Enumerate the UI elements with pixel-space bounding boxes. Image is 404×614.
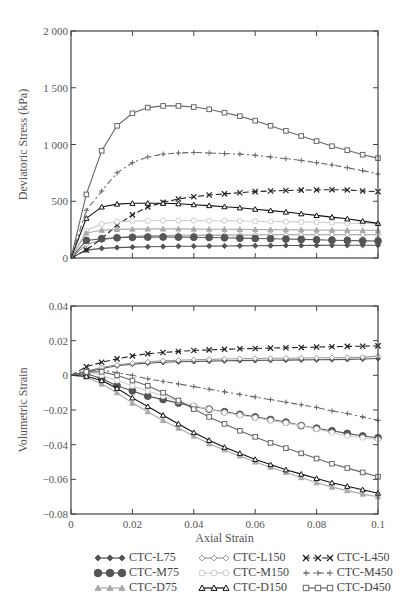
triangle-open-marker-icon [268, 208, 273, 213]
legend-label: CTC-D75 [129, 580, 177, 595]
circle-filled-marker-icon [313, 236, 320, 243]
series-ctc-l75 [71, 243, 381, 258]
plus-marker-icon [207, 387, 212, 392]
plus-marker-icon [314, 160, 319, 165]
legend-item-ctc-m75: CTC-M75 [94, 565, 198, 580]
circle-open-marker-icon [345, 433, 350, 438]
triangle-filled-marker-icon [329, 227, 334, 232]
diamond-open-marker-icon [360, 232, 365, 237]
square-open-marker-icon [207, 107, 212, 112]
triangle-filled-marker-icon [268, 227, 273, 232]
square-open-marker-icon [299, 451, 304, 456]
diamond-filled-marker-icon [222, 243, 227, 248]
diamond-open-marker-icon [199, 555, 205, 561]
diamond-open-marker-icon [345, 232, 350, 237]
square-open-marker-icon [315, 585, 320, 590]
figure: 05001 0001 5002 000Deviatoric Stress (kP… [0, 0, 404, 550]
circle-filled-marker-icon [190, 234, 197, 241]
y-tick-label: −0.02 [43, 404, 68, 416]
square-open-marker-icon [161, 390, 166, 395]
triangle-filled-marker-icon [222, 227, 227, 232]
circle-filled-marker-icon [252, 235, 259, 242]
plus-marker-icon [253, 394, 258, 399]
square-open-marker-icon [360, 152, 365, 157]
triangle-open-marker-icon [283, 467, 288, 472]
plus-marker-icon [161, 152, 166, 157]
plus-marker-icon [303, 570, 309, 576]
circle-filled-marker-icon [83, 237, 90, 244]
triangle-open-marker-icon [314, 476, 319, 481]
plus-marker-icon [191, 384, 196, 389]
circle-open-marker-icon [176, 218, 181, 223]
plus-legend-icon [302, 567, 334, 579]
square-open-marker-icon [345, 148, 350, 153]
legend-row: CTC-D75CTC-D150CTC-D450 [94, 580, 394, 595]
plus-marker-icon [191, 150, 196, 155]
y-tick-label: 0 [63, 252, 69, 264]
square-open-legend-icon [302, 582, 334, 594]
x-tick-label: 0.1 [371, 518, 385, 530]
plus-marker-icon [299, 158, 304, 163]
circle-open-marker-icon [130, 383, 135, 388]
circle-filled-marker-icon [298, 236, 305, 243]
square-open-marker-icon [130, 378, 135, 383]
triangle-open-marker-icon [253, 457, 258, 462]
legend-label: CTC-L75 [129, 550, 176, 565]
square-open-marker-icon [176, 104, 181, 109]
circle-open-marker-icon [207, 218, 212, 223]
y-tick-label: 0 [63, 369, 69, 381]
square-open-marker-icon [145, 105, 150, 110]
circle-open-marker-icon [199, 570, 205, 576]
triangle-open-marker-icon [345, 484, 350, 489]
triangle-open-marker-icon [207, 438, 212, 443]
triangle-filled-marker-icon [345, 228, 350, 233]
circle-open-marker-icon [329, 220, 334, 225]
triangle-filled-marker-icon [314, 227, 319, 232]
triangle-filled-marker-icon [145, 226, 150, 231]
y-tick-label: 500 [52, 195, 69, 207]
x-tick-label: 0.02 [123, 518, 142, 530]
triangle-open-marker-icon [222, 445, 227, 450]
plus-marker-icon [222, 389, 227, 394]
circle-filled-marker-icon [329, 237, 336, 244]
square-open-marker-icon [130, 111, 135, 116]
circle-open-marker-icon [268, 219, 273, 224]
triangle-open-marker-icon [345, 216, 350, 221]
legend-label: CTC-D150 [233, 580, 287, 595]
triangle-open-marker-icon [237, 205, 242, 210]
circle-filled-marker-icon [175, 234, 182, 241]
diamond-filled-marker-icon [114, 245, 119, 250]
triangle-filled-legend-icon [94, 582, 126, 594]
square-open-marker-icon [145, 383, 150, 388]
square-open-marker-icon [314, 456, 319, 461]
legend-item-ctc-d150: CTC-D150 [198, 580, 302, 595]
triangle-filled-marker-icon [283, 227, 288, 232]
circle-filled-marker-icon [129, 234, 136, 241]
square-open-marker-icon [299, 134, 304, 139]
triangle-open-marker-icon [222, 204, 227, 209]
triangle-open-marker-icon [329, 215, 334, 220]
circle-open-marker-icon [268, 418, 273, 423]
square-open-marker-icon [327, 585, 332, 590]
circle-open-marker-icon [314, 220, 319, 225]
diamond-filled-marker-icon [283, 243, 288, 248]
square-open-marker-icon [238, 429, 243, 434]
plus-marker-icon [283, 400, 288, 405]
triangle-filled-marker-icon [191, 226, 196, 231]
triangle-open-marker-icon [360, 487, 365, 492]
plus-marker-icon [360, 168, 365, 173]
square-open-marker-icon [253, 435, 258, 440]
diamond-filled-marker-icon [299, 243, 304, 248]
triangle-open-marker-icon [283, 209, 288, 214]
x-tick-label: 0.08 [307, 518, 327, 530]
square-open-marker-icon [253, 118, 258, 123]
triangle-open-marker-icon [145, 404, 150, 409]
triangle-open-marker-icon [268, 462, 273, 467]
diamond-open-marker-icon [211, 555, 217, 561]
circle-filled-marker-icon [94, 569, 102, 577]
legend-label: CTC-M150 [233, 565, 289, 580]
diamond-filled-marker-icon [176, 244, 181, 249]
plus-marker-icon [237, 392, 242, 397]
circle-open-marker-icon [237, 413, 242, 418]
legend-label: CTC-L150 [233, 550, 286, 565]
